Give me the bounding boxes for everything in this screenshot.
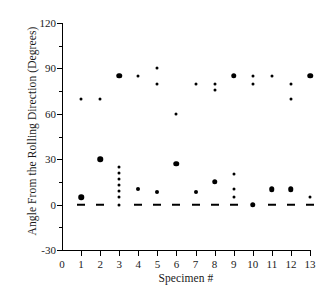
y-tick-label: 90 (45, 63, 56, 74)
x-tick-major (196, 250, 197, 256)
x-tick-label: 13 (305, 259, 316, 270)
x-tick-label: 4 (136, 259, 142, 270)
y-tick-minor (59, 182, 63, 183)
y-axis-title: Angle From the Rolling Direction (Degree… (26, 6, 38, 256)
data-point (118, 165, 121, 168)
x-tick-major (100, 250, 101, 256)
data-point (116, 73, 122, 79)
x-tick-label: 2 (97, 259, 103, 270)
x-tick-major (291, 250, 292, 256)
data-point (232, 196, 235, 199)
data-point (232, 188, 235, 191)
data-point (213, 88, 216, 91)
y-tick-major (57, 23, 63, 24)
data-point (212, 179, 218, 185)
x-tick-label: 0 (59, 259, 65, 270)
data-point (174, 161, 180, 167)
y-tick-minor (59, 227, 63, 228)
y-tick-minor (59, 46, 63, 47)
y-tick-label: 120 (40, 18, 57, 29)
data-point (156, 82, 159, 85)
data-point (306, 203, 314, 206)
data-point (155, 190, 159, 194)
x-tick-label: 5 (155, 259, 161, 270)
y-tick-major (57, 159, 63, 160)
data-point (118, 177, 121, 180)
data-point (289, 97, 292, 100)
x-tick-label: 12 (285, 259, 296, 270)
y-tick-label: 30 (45, 154, 56, 165)
chart-container: Angle From the Rolling Direction (Degree… (0, 0, 328, 299)
data-point (118, 189, 121, 192)
x-tick-major (157, 250, 158, 256)
x-tick-label: 3 (116, 259, 122, 270)
data-point (134, 203, 142, 206)
x-tick-label: 7 (193, 259, 199, 270)
y-tick-major (57, 205, 63, 206)
y-tick-minor (59, 137, 63, 138)
data-point (192, 203, 200, 206)
data-point (97, 156, 103, 162)
data-point (118, 183, 121, 186)
x-tick-label: 9 (231, 259, 237, 270)
data-point (136, 187, 140, 191)
data-point (118, 196, 121, 199)
data-point (99, 97, 102, 100)
x-tick-label: 10 (247, 259, 258, 270)
y-tick-major (57, 68, 63, 69)
data-point (211, 203, 219, 206)
data-point (289, 82, 292, 85)
data-point (194, 82, 197, 85)
x-tick-major (310, 250, 311, 256)
data-point (250, 202, 256, 208)
data-point (80, 97, 83, 100)
x-axis-title: Specimen # (62, 272, 310, 284)
data-point (230, 203, 238, 206)
data-point (118, 171, 121, 174)
y-tick-major (57, 250, 63, 251)
x-tick-major (253, 250, 254, 256)
data-point (78, 194, 84, 200)
x-tick-major (119, 250, 120, 256)
data-point (269, 187, 275, 193)
data-point (268, 203, 276, 206)
data-point (137, 74, 140, 77)
data-point (287, 203, 295, 206)
x-tick-label: 11 (267, 259, 278, 270)
plot-area: -300306090120 012345678910111213 (62, 23, 310, 250)
y-tick-major (57, 114, 63, 115)
data-point (156, 67, 159, 70)
data-point (251, 82, 254, 85)
data-point (77, 203, 85, 206)
x-tick-label: 8 (212, 259, 218, 270)
data-point (309, 196, 312, 199)
y-tick-label: -30 (41, 245, 56, 256)
data-point (96, 203, 104, 206)
data-point (307, 73, 313, 79)
x-tick-label: 6 (174, 259, 180, 270)
data-point (231, 73, 237, 79)
data-point (232, 173, 235, 176)
data-point (251, 74, 254, 77)
x-tick-major (272, 250, 273, 256)
x-tick-major (234, 250, 235, 256)
data-point (270, 74, 273, 77)
x-tick-major (138, 250, 139, 256)
x-tick-label: 1 (78, 259, 84, 270)
x-tick-major (81, 250, 82, 256)
data-point (194, 190, 198, 194)
data-point (118, 203, 121, 206)
y-tick-minor (59, 91, 63, 92)
data-point (175, 112, 178, 115)
x-tick-major (215, 250, 216, 256)
data-point (288, 187, 294, 193)
y-tick-label: 0 (51, 199, 57, 210)
y-tick-label: 60 (45, 108, 56, 119)
data-point (172, 203, 180, 206)
data-point (153, 203, 161, 206)
data-point (213, 82, 216, 85)
x-tick-major (176, 250, 177, 256)
